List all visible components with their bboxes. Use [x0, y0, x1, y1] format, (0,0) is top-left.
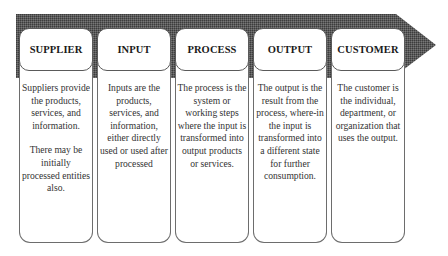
process-title: PROCESS [187, 44, 236, 55]
supplier-description: Suppliers provide the products, services… [19, 82, 93, 207]
supplier-header: SUPPLIER [19, 28, 93, 71]
supplier-title: SUPPLIER [30, 44, 83, 55]
output-description: The output is the result from the proces… [253, 82, 327, 195]
input-description: Inputs are the products, services, and i… [97, 82, 171, 182]
output-text: The output is the result from the proces… [255, 82, 325, 183]
customer-header: CUSTOMER [331, 28, 405, 71]
input-title: INPUT [117, 44, 150, 55]
customer-description: The customer is the individual, departme… [331, 82, 405, 157]
input-header: INPUT [97, 28, 171, 71]
process-header: PROCESS [175, 28, 249, 71]
customer-text: The customer is the individual, departme… [333, 82, 403, 145]
process-description: The process is the system or working ste… [175, 82, 249, 182]
supplier-text-2: There may be initially processed entitie… [21, 144, 91, 194]
input-text: Inputs are the products, services, and i… [99, 82, 169, 170]
customer-title: CUSTOMER [337, 44, 398, 55]
process-text: The process is the system or working ste… [177, 82, 247, 170]
output-title: OUTPUT [268, 44, 312, 55]
output-header: OUTPUT [253, 28, 327, 71]
supplier-text-1: Suppliers provide the products, services… [21, 82, 91, 132]
